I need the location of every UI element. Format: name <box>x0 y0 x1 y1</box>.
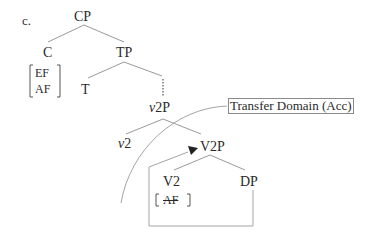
feature-af-deleted: AF <box>163 192 178 208</box>
node-dp: DP <box>240 175 258 189</box>
feature-af: AF <box>35 81 50 97</box>
node-V2: V2 <box>163 175 180 189</box>
v2-feature-bundle: AF <box>155 192 195 208</box>
transfer-domain-label: Transfer Domain (Acc) <box>228 98 354 114</box>
node-little-v2p: v2P <box>149 101 170 115</box>
c-feature-bundle: EF AF <box>28 64 62 98</box>
node-t: T <box>81 83 90 97</box>
node-c: C <box>43 46 52 60</box>
example-label: c. <box>22 14 31 28</box>
node-tp: TP <box>116 46 132 60</box>
node-little-v2-rest: 2 <box>124 136 131 151</box>
node-cp: CP <box>74 10 91 24</box>
feature-ef: EF <box>35 65 49 81</box>
node-V2P: V2P <box>200 140 225 154</box>
node-little-v2p-rest: 2P <box>155 100 170 115</box>
node-little-v2: v2 <box>118 137 131 151</box>
